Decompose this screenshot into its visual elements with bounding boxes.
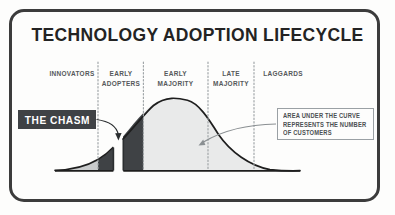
segment-label-innovators: INNOVATORS	[49, 69, 96, 79]
chasm-label-box: THE CHASM	[18, 110, 96, 129]
segment-label-early-majority-line1: EARLY	[146, 69, 205, 79]
callout-line-3: OF CUSTOMERS	[283, 129, 362, 138]
segment-label-laggards-line1: LAGGARDS	[257, 69, 309, 79]
segment-label-early-adopters-line2: ADOPTERS	[100, 79, 141, 89]
segment-label-late-majority-line2: MAJORITY	[210, 79, 251, 89]
segment-label-early-majority: EARLY MAJORITY	[146, 69, 205, 88]
segment-label-early-adopters: EARLY ADOPTERS	[100, 69, 141, 88]
segment-label-innovators-line1: INNOVATORS	[49, 69, 96, 79]
page-title: TECHNOLOGY ADOPTION LIFECYCLE	[16, 24, 379, 46]
callout-box: AREA UNDER THE CURVE REPRESENTS THE NUMB…	[277, 108, 374, 140]
callout-line-1: AREA UNDER THE CURVE	[283, 112, 362, 121]
segment-label-late-majority: LATE MAJORITY	[210, 69, 251, 88]
segment-label-laggards: LAGGARDS	[257, 69, 309, 79]
chasm-label-text: THE CHASM	[24, 114, 89, 126]
segment-label-early-majority-line2: MAJORITY	[146, 79, 205, 89]
diagram-canvas: TECHNOLOGY ADOPTION LIFECYCLE	[0, 0, 395, 215]
segment-label-late-majority-line1: LATE	[210, 69, 251, 79]
callout-line-2: REPRESENTS THE NUMBER	[283, 121, 362, 130]
segment-label-early-adopters-line1: EARLY	[100, 69, 141, 79]
